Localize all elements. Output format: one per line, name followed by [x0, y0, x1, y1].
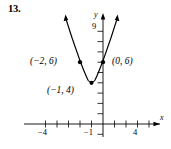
y-axis-label: y [94, 11, 98, 19]
y-axis-arrowhead [101, 13, 106, 20]
point-0-6 [101, 60, 105, 64]
y-axis-ticks [98, 31, 104, 134]
point-label-neg2-6: (−2, 6) [30, 57, 57, 67]
x-axis-arrowhead [154, 122, 161, 127]
figure-container: 13. [0, 0, 171, 149]
point-label-0-6: (0, 6) [112, 57, 133, 67]
parabola-right-arrowhead [115, 15, 120, 22]
x-axis-label: x [160, 114, 164, 122]
point-neg1-4-vertex [89, 81, 93, 85]
parabola-left-arrowhead [64, 15, 69, 22]
y-tick-label-9: 9 [92, 22, 96, 31]
point-neg2-6 [78, 60, 82, 64]
point-label-neg1-4: (−1, 4) [47, 86, 74, 96]
x-tick-label-4: 4 [133, 128, 137, 137]
x-tick-label-neg4: −4 [38, 128, 47, 137]
x-tick-label-neg1: −1 [84, 128, 93, 137]
